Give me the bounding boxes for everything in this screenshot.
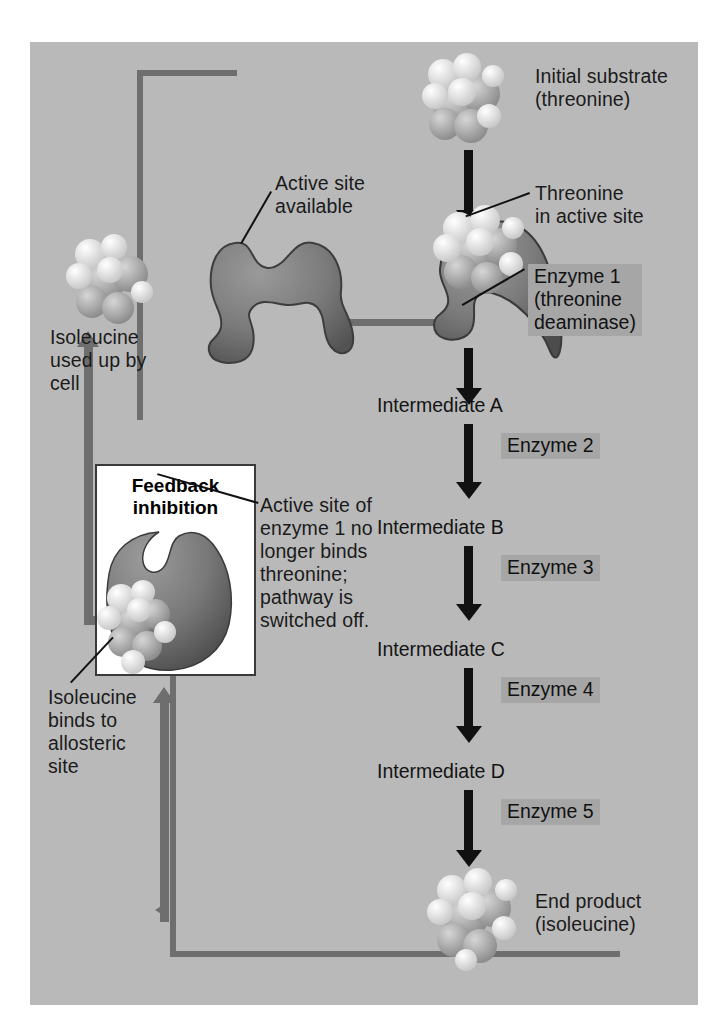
node-intermediate-a: Intermediate A <box>377 394 503 417</box>
node-intermediate-d: Intermediate D <box>377 760 505 783</box>
free-enzyme-shape <box>205 235 355 365</box>
feedback-line-free-enzyme-top <box>137 70 237 76</box>
enzyme3-tag: Enzyme 3 <box>501 555 600 581</box>
arrow-d-to-product <box>464 790 473 852</box>
allosteric-arrow-shaft <box>160 702 169 922</box>
end-product-label: End product (isoleucine) <box>535 890 641 936</box>
figure-canvas: Initial substrate (threonine) Active sit… <box>0 0 722 1032</box>
isoleucine-end-product-molecule <box>420 868 535 973</box>
enzyme4-tag: Enzyme 4 <box>501 677 600 703</box>
feedback-inhibition-title: Feedback inhibition <box>97 475 254 519</box>
arrow-c-to-d <box>464 668 473 728</box>
arrow-a-to-b <box>464 424 473 484</box>
isoleucine-allosteric-molecule <box>95 578 203 676</box>
enzyme5-tag: Enzyme 5 <box>501 799 600 825</box>
isoleucine-used-up-label: Isoleucine used up by cell <box>50 326 146 395</box>
isoleucine-used-molecule <box>60 234 170 329</box>
threonine-active-site-label: Threonine in active site <box>535 182 644 228</box>
initial-substrate-label: Initial substrate (threonine) <box>535 65 668 111</box>
enzyme1-tag: Enzyme 1 (threonine deaminase) <box>528 264 642 336</box>
feedback-loop-bottom <box>170 951 620 957</box>
allosteric-arrow-head-icon <box>153 687 175 703</box>
feedback-note-label: Active site of enzyme 1 no longer binds … <box>260 494 373 632</box>
enzyme2-tag: Enzyme 2 <box>501 433 600 459</box>
arrow-b-to-c <box>464 546 473 606</box>
diagram-panel: Initial substrate (threonine) Active sit… <box>30 42 698 1005</box>
node-intermediate-b: Intermediate B <box>377 516 504 539</box>
active-site-available-label: Active site available <box>275 172 365 218</box>
enzyme-transition-shaft <box>345 319 441 326</box>
threonine-molecule-top <box>415 52 525 144</box>
node-intermediate-c: Intermediate C <box>377 638 505 661</box>
arrow-to-intermediate-a <box>464 348 473 390</box>
isoleucine-binds-label: Isoleucine binds to allosteric site <box>48 686 137 778</box>
